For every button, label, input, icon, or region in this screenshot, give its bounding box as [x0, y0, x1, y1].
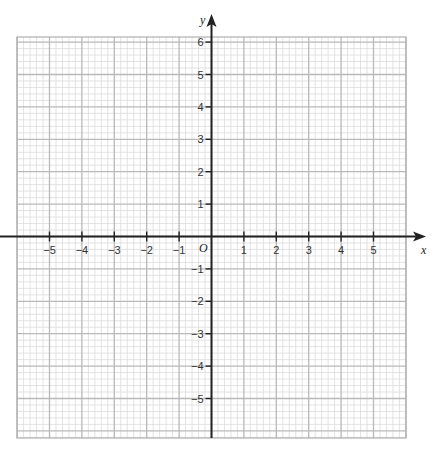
y-axis-label: y	[199, 13, 206, 27]
x-axis-ticks: −5−4−3−2−112345	[43, 232, 376, 256]
y-tick-label: 4	[197, 101, 203, 113]
x-tick-label: −5	[43, 244, 56, 256]
x-tick-label: 2	[273, 244, 279, 256]
x-axis-label: x	[420, 243, 427, 257]
x-tick-label: −4	[76, 244, 89, 256]
y-tick-label: 2	[197, 166, 203, 178]
y-tick-label: 3	[197, 133, 203, 145]
x-tick-label: −1	[173, 244, 186, 256]
axes	[0, 14, 426, 438]
y-tick-label: −1	[191, 263, 204, 275]
y-tick-label: 6	[197, 36, 203, 48]
x-tick-label: −3	[108, 244, 121, 256]
x-tick-label: 3	[306, 244, 312, 256]
x-tick-label: −2	[140, 244, 153, 256]
y-tick-label: 1	[197, 198, 203, 210]
x-tick-label: 5	[370, 244, 376, 256]
coordinate-grid: −5−4−3−2−112345 654321−1−2−3−4−5 x y O	[0, 0, 440, 458]
x-tick-label: 4	[338, 244, 344, 256]
y-axis-ticks: 654321−1−2−3−4−5	[191, 36, 212, 404]
x-tick-label: 1	[241, 244, 247, 256]
y-tick-label: −3	[191, 328, 204, 340]
y-tick-label: −5	[191, 393, 204, 405]
origin-label: O	[199, 241, 208, 255]
y-tick-label: −2	[191, 295, 204, 307]
y-tick-label: 5	[197, 69, 203, 81]
y-tick-label: −4	[191, 360, 204, 372]
